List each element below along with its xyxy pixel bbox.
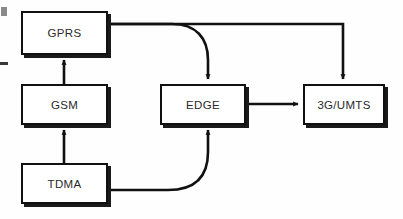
edge-tdma-to-edge bbox=[108, 130, 208, 190]
edge-gprs-to-edge bbox=[108, 24, 208, 79]
node-gprs-label: GPRS bbox=[48, 27, 82, 39]
node-tdma[interactable]: TDMA bbox=[21, 163, 108, 204]
node-3g-umts-label: 3G/UMTS bbox=[317, 99, 370, 111]
edge-gprs-to-3g bbox=[108, 24, 343, 79]
node-gsm-label: GSM bbox=[51, 99, 78, 111]
node-edge[interactable]: EDGE bbox=[160, 84, 246, 125]
diagram-canvas: GPRS GSM TDMA EDGE 3G/UMTS bbox=[0, 0, 403, 219]
node-3g-umts[interactable]: 3G/UMTS bbox=[303, 84, 385, 125]
node-edge-label: EDGE bbox=[186, 99, 220, 111]
node-gprs[interactable]: GPRS bbox=[21, 11, 108, 55]
node-tdma-label: TDMA bbox=[48, 178, 82, 190]
node-gsm[interactable]: GSM bbox=[21, 84, 108, 125]
